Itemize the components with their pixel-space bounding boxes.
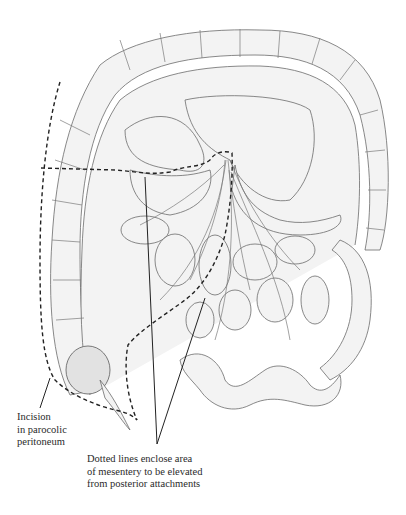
dotted-lines-label: Dotted lines enclose area of mesentery t… — [87, 453, 202, 491]
incision-leader — [40, 378, 50, 408]
incision-label: Incision in parocolic peritoneum — [17, 411, 67, 449]
